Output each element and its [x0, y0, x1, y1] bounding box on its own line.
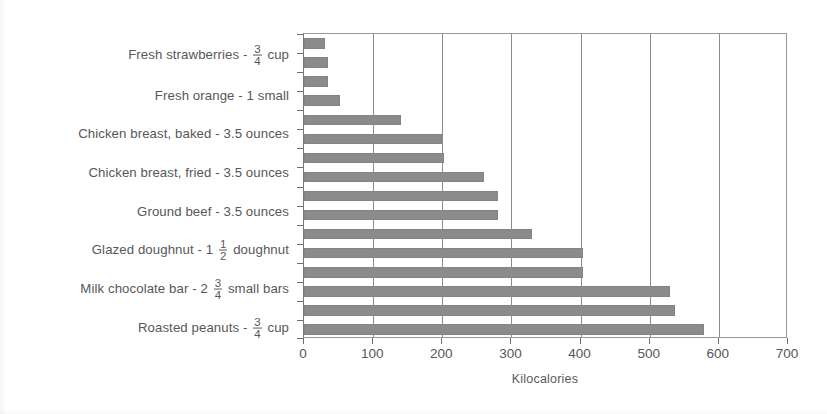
y-axis-tick	[297, 91, 304, 92]
category-label-suffix: cup	[264, 47, 289, 62]
x-axis-tick-label: 600	[707, 346, 730, 361]
category-label-fresh-strawberries: Fresh strawberries - 34 cup	[128, 44, 289, 69]
gridline	[511, 34, 512, 337]
fraction-glyph: 34	[253, 316, 262, 341]
y-axis-tick	[297, 320, 304, 321]
category-label-text: Fresh orange - 1 small	[155, 88, 289, 103]
y-axis-tick	[297, 187, 304, 188]
x-axis-tick	[580, 338, 581, 344]
fraction-numerator: 1	[219, 238, 228, 250]
x-axis-tick	[510, 338, 511, 344]
x-axis-tick	[649, 338, 650, 344]
y-axis-tick	[297, 148, 304, 149]
fraction-denominator: 4	[253, 55, 262, 68]
kilocalories-bar-chart: Fresh strawberries - 34 cupFresh orange …	[0, 0, 827, 414]
bar	[304, 248, 583, 259]
category-label-glazed-doughnut: Glazed doughnut - 1 12 doughnut	[92, 239, 289, 264]
category-label-suffix: cup	[264, 320, 289, 335]
gridline	[581, 34, 582, 337]
plot-area	[303, 33, 787, 338]
bar	[304, 229, 532, 240]
bar	[304, 76, 328, 87]
x-axis-tick	[303, 338, 304, 344]
fraction-denominator: 2	[219, 250, 228, 263]
y-axis-tick	[297, 263, 304, 264]
y-axis-tick	[297, 53, 304, 54]
category-label-text: Roasted peanuts -	[138, 320, 251, 335]
bar-series	[304, 34, 786, 337]
y-axis-tick	[297, 110, 304, 111]
x-axis-tick	[441, 338, 442, 344]
y-axis-tick	[297, 244, 304, 245]
category-label-milk-chocolate-bar: Milk chocolate bar - 2 34 small bars	[80, 278, 289, 303]
scan-edge-bottom	[0, 409, 827, 414]
y-axis-tick	[297, 225, 304, 226]
category-label-text: Chicken breast, baked - 3.5 ounces	[78, 126, 289, 141]
x-axis-tick	[787, 338, 788, 344]
category-label-text: Glazed doughnut - 1	[92, 242, 217, 257]
category-label-chicken-breast-baked: Chicken breast, baked - 3.5 ounces	[78, 127, 289, 140]
x-axis-tick	[718, 338, 719, 344]
fraction-glyph: 12	[219, 238, 228, 263]
x-axis-tick-label: 100	[361, 346, 384, 361]
y-axis-tick	[297, 129, 304, 130]
bar	[304, 210, 498, 221]
bar	[304, 191, 498, 202]
category-label-fresh-orange: Fresh orange - 1 small	[155, 89, 289, 102]
category-label-suffix: small bars	[224, 281, 289, 296]
category-label-suffix: doughnut	[229, 242, 289, 257]
bar	[304, 172, 484, 183]
fraction-denominator: 4	[214, 289, 223, 302]
bar	[304, 57, 328, 68]
category-label-text: Ground beef - 3.5 ounces	[137, 204, 289, 219]
x-axis-title: Kilocalories	[303, 372, 787, 386]
gridline	[719, 34, 720, 337]
fraction-glyph: 34	[214, 277, 223, 302]
gridline	[650, 34, 651, 337]
fraction-numerator: 3	[253, 43, 262, 55]
gridline	[442, 34, 443, 337]
category-label-column: Fresh strawberries - 34 cupFresh orange …	[0, 33, 297, 338]
bar	[304, 115, 401, 126]
x-axis-tick-label: 200	[430, 346, 453, 361]
x-axis-tick-label: 400	[568, 346, 591, 361]
bar	[304, 153, 444, 164]
y-axis-tick	[297, 167, 304, 168]
bar	[304, 95, 340, 106]
fraction-glyph: 34	[253, 43, 262, 68]
x-axis-tick-label: 700	[776, 346, 799, 361]
x-axis-tick	[372, 338, 373, 344]
category-label-roasted-peanuts: Roasted peanuts - 34 cup	[138, 317, 289, 342]
y-axis-tick	[297, 282, 304, 283]
bar	[304, 324, 704, 335]
category-label-text: Fresh strawberries -	[128, 47, 251, 62]
x-axis-tick-label: 0	[299, 346, 307, 361]
bar	[304, 267, 583, 278]
category-label-chicken-breast-fried: Chicken breast, fried - 3.5 ounces	[88, 166, 289, 179]
y-axis-tick	[297, 34, 304, 35]
y-axis-tick	[297, 301, 304, 302]
category-label-ground-beef: Ground beef - 3.5 ounces	[137, 205, 289, 218]
fraction-numerator: 3	[214, 277, 223, 289]
bar	[304, 286, 670, 297]
category-label-text: Chicken breast, fried - 3.5 ounces	[88, 165, 289, 180]
gridline	[373, 34, 374, 337]
x-axis-tick-label: 500	[637, 346, 660, 361]
y-axis-tick	[297, 72, 304, 73]
y-axis-tick	[297, 206, 304, 207]
bar	[304, 305, 675, 316]
bar	[304, 38, 325, 49]
fraction-numerator: 3	[253, 316, 262, 328]
category-label-text: Milk chocolate bar - 2	[80, 281, 211, 296]
fraction-denominator: 4	[253, 328, 262, 341]
x-axis-tick-label: 300	[499, 346, 522, 361]
